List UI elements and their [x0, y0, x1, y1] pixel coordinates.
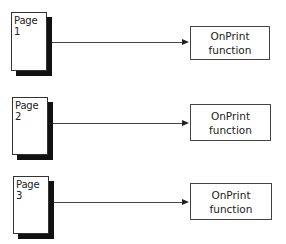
page-2-arrow-line — [53, 123, 184, 124]
page-3-arrow-line — [54, 202, 184, 203]
function-box-1-line2: function — [209, 43, 252, 57]
page-1-label: Page 1 — [14, 15, 46, 37]
page-1-box: Page 1 — [11, 12, 47, 71]
page-3-arrowhead-icon — [182, 199, 189, 205]
onprint-function-box-2: OnPrint function — [190, 104, 271, 141]
function-box-3-line1: OnPrint — [211, 188, 250, 202]
onprint-function-box-3: OnPrint function — [190, 183, 272, 220]
page-2-label: Page 2 — [15, 100, 47, 122]
page-3-label: Page 3 — [16, 179, 48, 201]
page-2-box: Page 2 — [12, 97, 48, 155]
page-2-arrowhead-icon — [182, 120, 189, 126]
onprint-function-box-1: OnPrint function — [190, 26, 270, 60]
function-box-2-line1: OnPrint — [211, 109, 250, 123]
function-box-1-line1: OnPrint — [210, 29, 249, 43]
function-box-3-line2: function — [210, 202, 253, 216]
page-3-box: Page 3 — [13, 176, 49, 234]
function-box-2-line2: function — [209, 123, 252, 137]
page-1-arrow-line — [52, 42, 184, 43]
page-1-arrowhead-icon — [182, 39, 189, 45]
